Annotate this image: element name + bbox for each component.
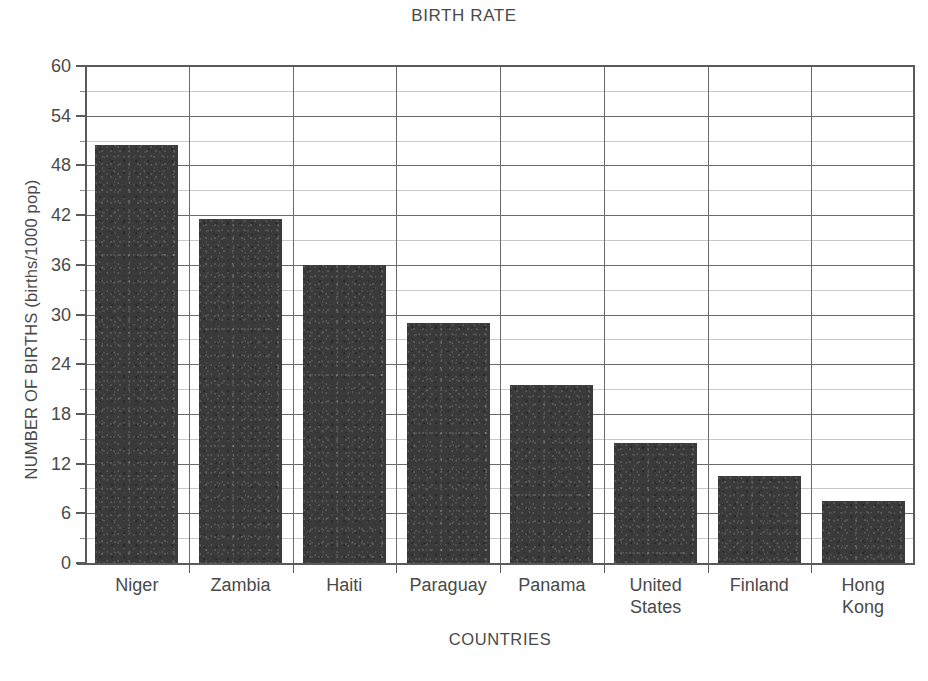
x-tick-label: Paraguay bbox=[396, 574, 500, 596]
x-axis-title: COUNTRIES bbox=[85, 630, 915, 649]
plot-top-border bbox=[85, 65, 915, 67]
x-axis-line bbox=[77, 563, 915, 565]
x-tick-label-line: Niger bbox=[115, 575, 158, 595]
y-tick-label: 60 bbox=[51, 56, 71, 77]
bar bbox=[95, 145, 178, 563]
y-tick-label: 24 bbox=[51, 354, 71, 375]
x-tick-label: HongKong bbox=[811, 574, 915, 618]
x-tick-label-line: Hong bbox=[842, 575, 885, 595]
plot-area: 06121824303642485460 NigerZambiaHaitiPar… bbox=[85, 66, 915, 563]
x-tick-label: Zambia bbox=[189, 574, 293, 596]
x-tick-label-line: States bbox=[604, 596, 708, 618]
birth-rate-bar-chart: BIRTH RATE NUMBER OF BIRTHS (births/1000… bbox=[0, 0, 928, 681]
x-tick-label-line: Kong bbox=[811, 596, 915, 618]
y-tick-label: 18 bbox=[51, 403, 71, 424]
x-tick-label-line: Zambia bbox=[211, 575, 271, 595]
bar bbox=[822, 501, 905, 563]
bar bbox=[718, 476, 801, 563]
y-tick-label: 6 bbox=[61, 503, 71, 524]
chart-title: BIRTH RATE bbox=[0, 6, 928, 26]
bar bbox=[199, 219, 282, 563]
y-axis-line bbox=[85, 65, 87, 565]
bar bbox=[614, 443, 697, 563]
y-tick-label: 0 bbox=[61, 553, 71, 574]
bar bbox=[407, 323, 490, 563]
category-separator bbox=[396, 66, 397, 563]
bar bbox=[510, 385, 593, 563]
category-separator bbox=[293, 66, 294, 563]
x-tick-label: Niger bbox=[85, 574, 189, 596]
y-tick-label: 12 bbox=[51, 453, 71, 474]
y-axis-title: NUMBER OF BIRTHS (births/1000 pop) bbox=[22, 110, 41, 550]
bar bbox=[303, 265, 386, 563]
category-separator bbox=[189, 66, 190, 563]
category-separator bbox=[604, 66, 605, 563]
x-tick-label: Haiti bbox=[293, 574, 397, 596]
x-tick-label: Panama bbox=[500, 574, 604, 596]
category-separator bbox=[811, 66, 812, 563]
y-tick-label: 54 bbox=[51, 105, 71, 126]
y-tick-label: 36 bbox=[51, 254, 71, 275]
y-tick-label: 42 bbox=[51, 205, 71, 226]
x-tick-label-line: Paraguay bbox=[410, 575, 487, 595]
plot-right-border bbox=[913, 65, 915, 565]
category-separator bbox=[500, 66, 501, 563]
x-tick-label-line: Haiti bbox=[326, 575, 362, 595]
category-separator bbox=[708, 66, 709, 563]
y-tick-label: 30 bbox=[51, 304, 71, 325]
y-tick-label: 48 bbox=[51, 155, 71, 176]
x-tick-label: Finland bbox=[708, 574, 812, 596]
x-tick-label-line: Panama bbox=[518, 575, 585, 595]
x-tick-label: UnitedStates bbox=[604, 574, 708, 618]
x-tick-label-line: United bbox=[630, 575, 682, 595]
x-tick-label-line: Finland bbox=[730, 575, 789, 595]
